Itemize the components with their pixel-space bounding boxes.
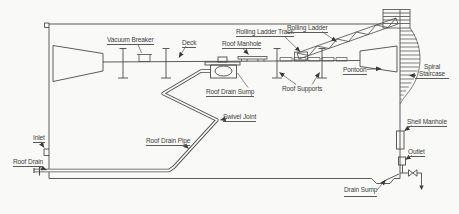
leader-deck: [179, 46, 186, 58]
pipe-bore: [34, 71, 217, 171]
label-deck: Deck: [182, 39, 196, 48]
leader-roof-manhole: [243, 49, 249, 55]
roof-drain-sump-assembly: [205, 57, 240, 78]
flow-arrow-down-icon: [419, 186, 423, 191]
vacuum-breaker-box: [137, 55, 152, 62]
sump-bowl: [215, 66, 232, 76]
leader-roof-support-right: [312, 73, 320, 85]
label-roof-manhole: Roof Manhole: [222, 40, 261, 49]
roof-manhole-plate: [238, 57, 267, 60]
leader-vacuum-breaker: [138, 45, 142, 54]
tank-diagram-canvas: Vacuum Breaker Deck Roof Manhole Rolling…: [0, 0, 459, 214]
roof-support: [161, 49, 171, 79]
label-pontoon: Pontoon: [343, 66, 367, 75]
outlet-piping: [400, 165, 422, 186]
shell-fittings: [44, 131, 424, 190]
label-rolling-ladder-track: Rolling Ladder Track: [236, 28, 294, 37]
top-left-lip: [45, 23, 50, 28]
leader-rolling-ladder-track: [285, 37, 300, 52]
label-roof-drain: Roof Drain: [13, 158, 43, 167]
label-inlet: Inlet: [33, 134, 45, 143]
leader-roof-drain-sump: [238, 73, 249, 88]
sump-drain-line: [384, 174, 399, 181]
inlet-nozzle: [44, 149, 49, 156]
outlet-valve-icon: [409, 170, 418, 176]
roof-support: [118, 49, 128, 79]
label-roof-supports: Roof Supports: [282, 85, 322, 93]
label-swivel-joint: Swivel Joint: [223, 113, 256, 122]
roof-drain-pipe-run: [34, 71, 217, 176]
vacuum-breaker-device: [137, 55, 152, 62]
label-rolling-ladder: Rolling Ladder: [287, 24, 328, 33]
label-outlet: Outlet: [408, 148, 425, 157]
roof-support-legs: [118, 49, 327, 79]
leader-rolling-ladder: [322, 32, 337, 42]
leader-drain-sump: [377, 180, 386, 190]
ladder-carriage: [295, 52, 308, 60]
pipe-outer: [34, 71, 217, 171]
label-roof-drain-pipe: Roof Drain Pipe: [146, 137, 190, 146]
tank-linework: [0, 0, 459, 214]
left-pontoon-shape: [53, 46, 103, 82]
label-vacuum-breaker: Vacuum Breaker: [107, 36, 154, 45]
label-spiral-staircase: Spiral Staircase: [415, 63, 449, 79]
label-shell-manhole: Shell Manhole: [407, 118, 447, 127]
tank-bottom-with-sump: [49, 179, 400, 184]
label-drain-sump: Drain Sump: [344, 186, 377, 197]
leader-roof-support-left: [280, 73, 297, 85]
leader-lines: [39, 32, 416, 191]
label-roof-drain-sump: Roof Drain Sump: [206, 88, 254, 97]
